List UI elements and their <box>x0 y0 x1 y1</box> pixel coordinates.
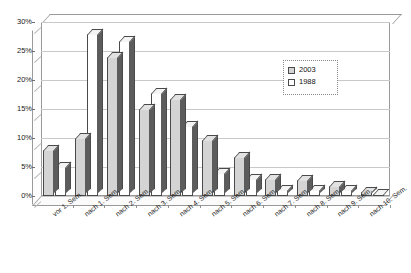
bar-chart: 0%5%10%15%20%25%30% vor 1. Sem.nach 1. S… <box>0 0 411 273</box>
y-axis-tick <box>32 167 35 168</box>
y-axis-tick <box>32 80 35 81</box>
x-axis-tick <box>390 205 391 208</box>
legend-label: 2003 <box>299 66 316 74</box>
y-axis-tick-label: 5% <box>4 163 32 171</box>
x-axis-tick <box>295 205 296 208</box>
x-axis-tick <box>168 205 169 208</box>
x-axis-tick <box>327 205 328 208</box>
y-axis-tick <box>32 138 35 139</box>
y-axis-tick-label: 20% <box>4 76 32 84</box>
legend-swatch-2003-icon <box>288 67 295 74</box>
x-axis-tick <box>104 205 105 208</box>
y-axis-tick-label: 15% <box>4 105 32 113</box>
x-axis-tick <box>73 205 74 208</box>
x-axis-labels: vor 1. Sem.nach 1. Sem.nach 2. Sem.nach … <box>0 0 411 273</box>
y-axis-tick <box>32 109 35 110</box>
x-axis-tick <box>263 205 264 208</box>
legend-swatch-1988-icon <box>288 79 295 86</box>
y-axis: 0%5%10%15%20%25%30% <box>0 0 32 273</box>
x-axis-label: nach 7. Sem. <box>273 187 310 218</box>
y-axis-tick-label: 0% <box>4 192 32 200</box>
legend-item: 2003 <box>288 64 333 76</box>
x-axis-tick <box>200 205 201 208</box>
y-axis-tick <box>32 22 35 23</box>
legend-label: 1988 <box>299 78 316 86</box>
x-axis-label: vor 1. Sem. <box>51 190 84 218</box>
x-axis-tick <box>136 205 137 208</box>
x-axis-tick <box>231 205 232 208</box>
y-axis-tick <box>32 196 35 197</box>
x-axis-label: nach 4. Sem. <box>178 187 215 218</box>
y-axis-tick-label: 10% <box>4 134 32 142</box>
legend-item: 1988 <box>288 76 333 88</box>
x-axis-tick <box>358 205 359 208</box>
chart-legend: 2003 1988 <box>283 60 338 95</box>
y-axis-tick-label: 30% <box>4 18 32 26</box>
y-axis-tick <box>32 51 35 52</box>
x-axis-label: nach 3. Sem. <box>146 187 183 218</box>
x-axis-label: nach 10. Sem. <box>368 184 408 217</box>
y-axis-tick-label: 25% <box>4 47 32 55</box>
